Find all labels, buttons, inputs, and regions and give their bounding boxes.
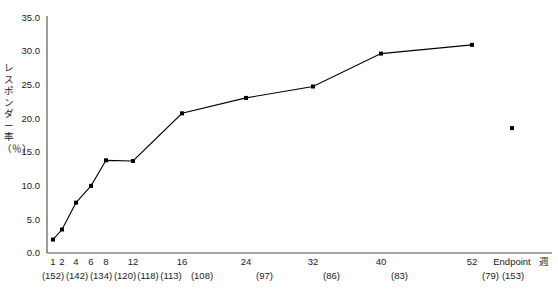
- data-point-marker: [244, 96, 248, 100]
- x-axis-tick-label-endpoint: Endpoint: [481, 256, 543, 267]
- responder-rate-line: [53, 45, 472, 240]
- data-point-marker: [131, 159, 135, 163]
- x-axis-tick-label-week: 24: [238, 256, 254, 267]
- data-point-marker: [104, 158, 108, 162]
- x-axis-sample-size: (83): [387, 270, 412, 281]
- x-axis-tick-label-week: 12: [125, 256, 141, 267]
- data-point-marker: [379, 52, 383, 56]
- x-axis-tick-label-week: 4: [68, 256, 84, 267]
- x-axis-tick-label-week: 40: [373, 256, 389, 267]
- x-axis-tick-label-week: 32: [305, 256, 321, 267]
- responder-rate-chart: レスポンダー率（％） 35.0 30.0 25.0 20.0 15.0 10.0…: [0, 0, 558, 292]
- x-axis-tick-label-week: 52: [464, 256, 480, 267]
- x-axis-sample-size: (97): [252, 270, 277, 281]
- plot-area: [0, 0, 558, 292]
- data-point-marker: [89, 184, 93, 188]
- x-axis-sample-size: (113): [157, 270, 185, 281]
- x-axis-sample-size: (86): [319, 270, 344, 281]
- x-axis-tick-label-week: 8: [98, 256, 114, 267]
- data-point-marker: [470, 43, 474, 47]
- data-point-marker: [60, 228, 64, 232]
- data-point-marker: [51, 238, 55, 242]
- data-point-marker: [180, 111, 184, 115]
- x-axis-sample-size: (108): [188, 270, 216, 281]
- x-axis-tick-label-week: 16: [174, 256, 190, 267]
- data-point-markers: [51, 43, 514, 242]
- x-axis-tick-label-week: 6: [83, 256, 99, 267]
- data-point-marker: [74, 201, 78, 205]
- data-point-marker: [510, 126, 514, 130]
- x-axis-sample-size: (153): [499, 270, 527, 281]
- x-axis-unit-label: 週: [539, 256, 549, 267]
- data-point-marker: [311, 84, 315, 88]
